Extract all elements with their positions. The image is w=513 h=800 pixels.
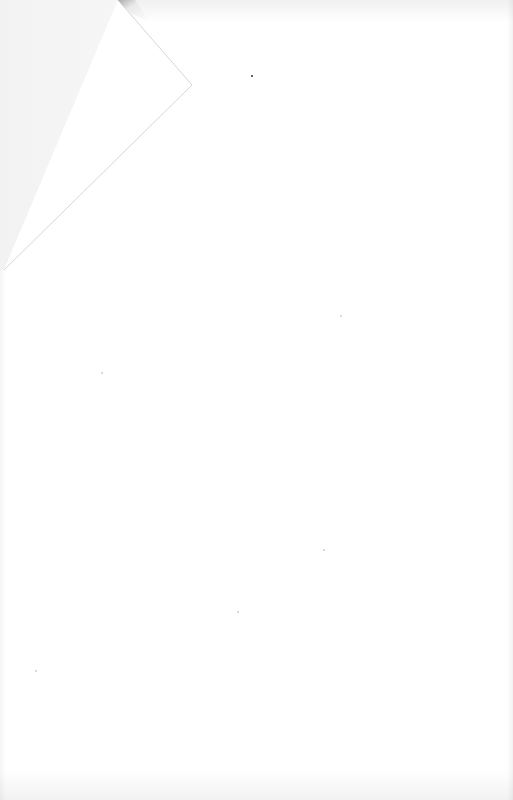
left-edge-shadow — [0, 260, 6, 800]
right-edge-shadow — [507, 0, 513, 800]
blank-page — [0, 0, 513, 800]
dust-speck — [251, 75, 253, 77]
dust-speck — [101, 372, 103, 374]
dust-speck — [323, 549, 325, 551]
dust-speck — [35, 670, 37, 672]
folded-corner — [0, 0, 200, 280]
dust-speck — [237, 611, 239, 613]
dust-speck — [340, 315, 342, 317]
bottom-edge-shadow — [0, 770, 513, 800]
